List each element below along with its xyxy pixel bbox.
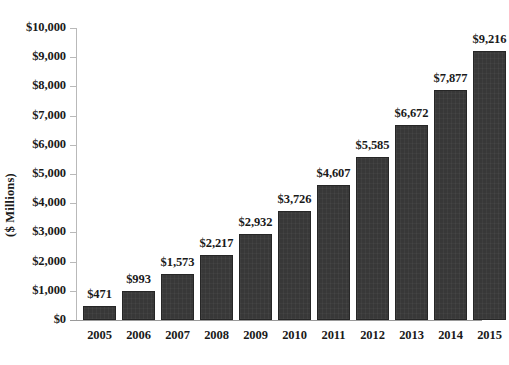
x-axis-tick-label: 2011 [314, 328, 353, 343]
y-axis-tick-mark [70, 262, 77, 263]
bar-value-label: $7,877 [434, 71, 468, 86]
bar[interactable] [395, 125, 428, 320]
x-axis-tick-label: 2013 [392, 328, 431, 343]
x-axis-tick-labels: 2005200620072008200920102011201220132014… [77, 328, 482, 350]
bar-slot: $1,573 [158, 28, 197, 320]
bar-slot: $2,932 [236, 28, 275, 320]
y-axis-tick-label: $2,000 [0, 254, 66, 269]
bar-slot: $4,607 [314, 28, 353, 320]
y-axis-tick-label: $10,000 [0, 20, 66, 35]
bar[interactable] [239, 234, 272, 320]
bar[interactable] [434, 90, 467, 320]
bar[interactable] [161, 274, 194, 320]
y-axis-tick-mark [70, 203, 77, 204]
bar-value-label: $471 [87, 287, 112, 302]
bar-value-label: $993 [126, 272, 151, 287]
x-axis-tick-label: 2014 [431, 328, 470, 343]
bar[interactable] [356, 157, 389, 320]
y-axis-tick-mark [70, 28, 77, 29]
y-axis-tick-mark [70, 145, 77, 146]
bar[interactable] [122, 291, 155, 320]
bar-slot: $7,877 [431, 28, 470, 320]
bar-value-label: $9,216 [473, 32, 507, 47]
x-axis-tick-label: 2005 [80, 328, 119, 343]
y-axis-tick-label: $6,000 [0, 137, 66, 152]
bar[interactable] [317, 185, 350, 320]
y-axis-tick-mark [70, 174, 77, 175]
x-axis-tick-label: 2010 [275, 328, 314, 343]
y-axis-tick-mark [70, 291, 77, 292]
bar-slot: $9,216 [470, 28, 509, 320]
bar-value-label: $2,932 [239, 215, 273, 230]
bar-value-label: $6,672 [395, 106, 429, 121]
y-axis-tick-mark [70, 86, 77, 87]
bar-value-label: $3,726 [278, 192, 312, 207]
x-axis-tick-label: 2007 [158, 328, 197, 343]
bar-slot: $5,585 [353, 28, 392, 320]
bar-value-label: $5,585 [356, 138, 390, 153]
y-axis-tick-label: $1,000 [0, 283, 66, 298]
x-axis-tick-label: 2012 [353, 328, 392, 343]
bar-slot: $993 [119, 28, 158, 320]
y-axis-title: ($ Millions) [3, 173, 18, 237]
y-axis-tick-label: $7,000 [0, 108, 66, 123]
y-axis-tick-label: $9,000 [0, 49, 66, 64]
bar-value-label: $4,607 [317, 166, 351, 181]
x-axis-tick-label: 2008 [197, 328, 236, 343]
bar-slot: $471 [80, 28, 119, 320]
bar[interactable] [200, 255, 233, 320]
x-axis-tick-label: 2015 [470, 328, 509, 343]
y-axis-tick-mark [70, 116, 77, 117]
y-axis-tick-mark [70, 232, 77, 233]
y-axis-tick-mark [70, 57, 77, 58]
plot-area: $471$993$1,573$2,217$2,932$3,726$4,607$5… [77, 28, 482, 320]
y-axis-tick-label: $8,000 [0, 78, 66, 93]
bar[interactable] [473, 51, 506, 320]
bar[interactable] [278, 211, 311, 320]
x-axis-tick-label: 2009 [236, 328, 275, 343]
bar-slot: $3,726 [275, 28, 314, 320]
x-axis-tick-label: 2006 [119, 328, 158, 343]
bar-value-label: $2,217 [200, 236, 234, 251]
x-axis-line [70, 320, 482, 321]
bar[interactable] [83, 306, 116, 320]
bar-slot: $2,217 [197, 28, 236, 320]
y-axis-tick-label: $0 [0, 312, 66, 327]
bar-slot: $6,672 [392, 28, 431, 320]
bar-value-label: $1,573 [161, 255, 195, 270]
